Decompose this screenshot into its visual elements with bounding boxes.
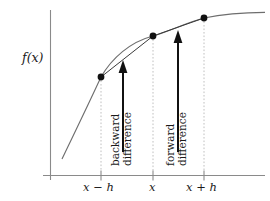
data-point-x bbox=[150, 33, 157, 40]
backward-difference-label-line2: difference bbox=[122, 112, 134, 166]
forward-difference-label-line2: difference bbox=[177, 112, 189, 166]
y-axis-label: f(x) bbox=[22, 50, 43, 65]
x-tick-label-x-plus-h: x + h bbox=[186, 180, 217, 194]
backward-difference-label: backward difference bbox=[110, 112, 134, 166]
finite-difference-figure: f(x) x − h x x + h backward difference f… bbox=[0, 0, 270, 201]
data-point-x-minus-h bbox=[98, 74, 105, 81]
backward-difference-label-line1: backward bbox=[110, 112, 122, 166]
x-tick-label-x-minus-h: x − h bbox=[83, 180, 114, 194]
data-point-x-plus-h bbox=[201, 15, 208, 22]
backward-secant-line bbox=[101, 36, 153, 77]
plot-canvas bbox=[0, 0, 270, 201]
forward-difference-label-line1: forward bbox=[165, 112, 177, 166]
forward-difference-label: forward difference bbox=[165, 112, 189, 166]
x-tick-label-x: x bbox=[149, 180, 156, 194]
